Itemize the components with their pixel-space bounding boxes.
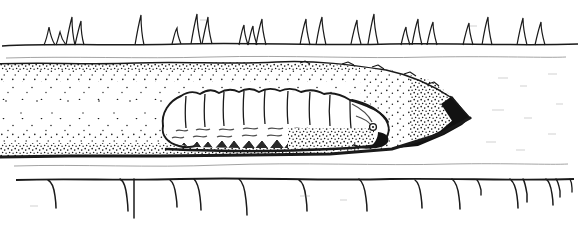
leaf-mine-figure (0, 0, 580, 226)
figure-canvas (0, 0, 580, 226)
larva-eye-pupil (372, 126, 374, 128)
larva-segment-line (287, 91, 288, 124)
larva-segment-line (309, 92, 310, 125)
larva-segment-line (185, 96, 186, 128)
larva-segment-line (204, 94, 205, 127)
larva-segment-line (329, 95, 330, 126)
lower-epidermis-line (16, 178, 574, 180)
